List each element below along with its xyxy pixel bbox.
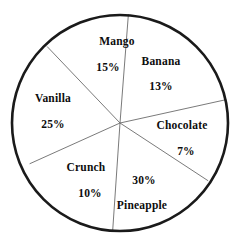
- pie-label-vanilla: Vanilla: [35, 93, 71, 105]
- pie-label-crunch: Crunch: [67, 162, 106, 174]
- pie-value-banana: 13%: [149, 81, 173, 93]
- pie-value-vanilla: 25%: [41, 119, 65, 131]
- pie-value-mango: 15%: [96, 62, 120, 74]
- pie-value-chocolate: 7%: [177, 146, 195, 158]
- pie-label-banana: Banana: [142, 56, 181, 68]
- pie-value-pineapple: 30%: [132, 175, 156, 187]
- pie-chart-figure: Mango 15% Banana 13% Vanilla 25% Chocola…: [0, 0, 243, 244]
- pie-label-pineapple: Pineapple: [117, 200, 167, 212]
- pie-value-crunch: 10%: [78, 188, 102, 200]
- pie-label-chocolate: Chocolate: [157, 120, 208, 132]
- pie-label-mango: Mango: [99, 36, 135, 48]
